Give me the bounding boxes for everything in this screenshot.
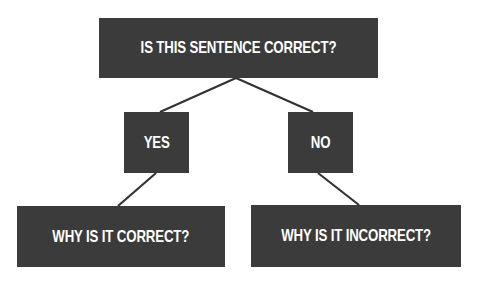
yes-node: YES	[124, 112, 189, 173]
root-question-node: IS THIS SENTENCE CORRECT?	[99, 18, 378, 78]
why-incorrect-label: WHY IS IT INCORRECT?	[281, 226, 431, 246]
edge-yes-to-why-correct	[118, 173, 156, 206]
decision-tree-diagram: IS THIS SENTENCE CORRECT? YES NO WHY IS …	[0, 0, 478, 284]
why-correct-label: WHY IS IT CORRECT?	[53, 227, 190, 247]
edge-root-to-yes	[160, 78, 236, 112]
no-label: NO	[311, 133, 331, 153]
edge-root-to-no	[236, 78, 313, 112]
why-incorrect-node: WHY IS IT INCORRECT?	[251, 205, 461, 267]
edge-no-to-why-incorrect	[318, 173, 359, 205]
root-question-label: IS THIS SENTENCE CORRECT?	[141, 38, 337, 58]
yes-label: YES	[143, 133, 169, 153]
no-node: NO	[288, 112, 353, 173]
why-correct-node: WHY IS IT CORRECT?	[17, 206, 225, 267]
